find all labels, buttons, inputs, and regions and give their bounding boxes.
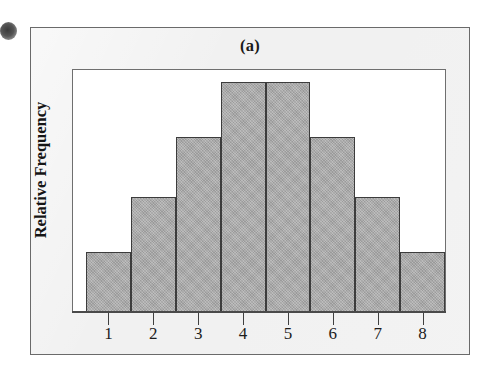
x-axis-tick-label: 1 [93, 324, 123, 344]
x-axis-tick-label: 3 [183, 324, 213, 344]
histogram-bar [176, 137, 221, 312]
x-axis-tick-label: 8 [408, 324, 438, 344]
histogram-bar [221, 82, 266, 312]
histogram-bar [400, 252, 445, 312]
histogram-bar [266, 82, 311, 312]
x-axis-tick-label: 7 [363, 324, 393, 344]
x-axis-tick-label: 6 [318, 324, 348, 344]
histogram-bar [131, 197, 176, 312]
histogram-bar [355, 197, 400, 312]
x-axis-tick-labels: 12345678 [73, 324, 445, 348]
histogram-bars [73, 70, 445, 312]
plot-area [73, 70, 445, 312]
histogram-bar [310, 137, 355, 312]
scan-artifact-blob [0, 22, 17, 40]
histogram-bar [86, 252, 131, 312]
x-axis-tick-label: 4 [228, 324, 258, 344]
y-axis-title: Relative Frequency [31, 70, 53, 270]
panel-title: (a) [31, 36, 469, 56]
x-axis-tick-label: 2 [138, 324, 168, 344]
x-axis-tick-label: 5 [273, 324, 303, 344]
